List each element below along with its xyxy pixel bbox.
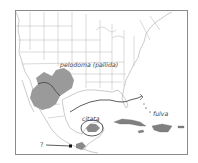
distribution-map: pelodoma (pallida) citata fulva ? [0,0,198,163]
unknown-record-point [69,145,72,148]
label-citata: citata [82,115,100,122]
label-fulva: fulva [153,110,168,117]
label-pelodoma: pelodoma (pallida) [59,61,118,69]
puerto-rico-island [178,126,184,128]
label-unknown: ? [40,141,43,149]
bahamas-islet [149,111,150,112]
map-canvas: pelodoma (pallida) citata fulva ? [0,0,198,163]
